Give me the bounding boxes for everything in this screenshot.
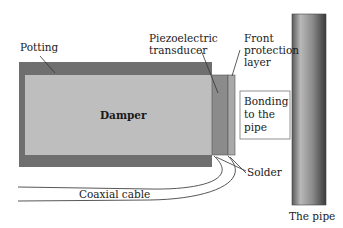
label-solder: Solder [247,166,282,178]
label-coax: Coaxial cable [79,188,150,200]
label-front-line3: layer [244,56,271,68]
label-potting: Potting [20,41,58,53]
label-bonding-line1: Bonding [244,95,288,107]
label-damper: Damper [100,109,147,121]
pipe [292,14,326,205]
label-front-line2: protection [244,44,299,56]
front-protection-layer [228,75,235,155]
label-piezo-line1: Piezoelectric [149,32,218,44]
label-bonding-line2: to the [244,108,275,120]
label-bonding-line3: pipe [244,121,267,133]
label-piezo-line2: transducer [149,44,207,56]
label-front-line1: Front [244,32,274,44]
front-leader [232,50,240,76]
piezo-transducer [212,75,228,155]
label-pipe: The pipe [289,210,335,222]
